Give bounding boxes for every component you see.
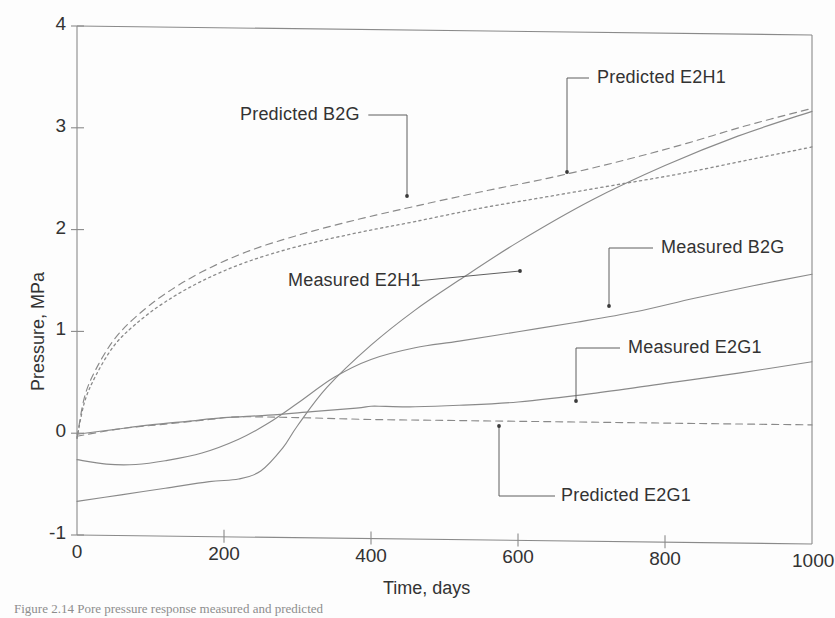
series-annotation-label: Predicted E2H1: [597, 67, 726, 88]
annotation-endpoint: [574, 399, 578, 403]
x-tick-label: 1000: [792, 550, 832, 572]
series-line: [77, 108, 812, 438]
chart-canvas: [0, 0, 835, 618]
series-annotation-label: Measured E2G1: [628, 337, 762, 358]
figure-caption: Figure 2.14 Pore pressure response measu…: [14, 601, 323, 618]
y-tick-label: -1: [34, 522, 66, 544]
x-tick-label: 800: [645, 548, 685, 570]
series-annotation-label: Measured E2H1: [288, 270, 421, 291]
annotation-leader: [567, 78, 589, 172]
x-tick-label: 400: [351, 545, 391, 567]
series-line: [77, 147, 812, 438]
x-tick-label: 600: [498, 546, 538, 568]
figure-container: Pressure, MPa Time, days 020040060080010…: [0, 0, 835, 618]
annotation-leader: [609, 248, 653, 306]
y-tick-label: 3: [34, 115, 66, 137]
annotation-endpoint: [565, 170, 569, 174]
annotation-leader: [416, 271, 520, 281]
series-line: [77, 274, 812, 465]
x-tick-label: 200: [204, 543, 244, 565]
axes: [71, 26, 812, 548]
y-tick-label: 0: [34, 420, 66, 442]
annotation-endpoint: [497, 424, 501, 428]
y-tick-label: 1: [34, 318, 66, 340]
x-tick-label: 0: [57, 541, 97, 563]
annotation-endpoint: [607, 304, 611, 308]
annotation-endpoint: [405, 194, 409, 198]
data-series: [77, 108, 812, 501]
series-annotation-label: Predicted B2G: [240, 104, 360, 125]
series-annotation-label: Measured B2G: [661, 237, 784, 258]
y-tick-label: 2: [34, 217, 66, 239]
annotation-leader: [368, 115, 407, 196]
series-line: [77, 417, 812, 436]
annotation-endpoint: [518, 269, 522, 273]
x-axis-title: Time, days: [383, 578, 470, 599]
annotation-leader: [499, 426, 555, 496]
series-annotation-label: Predicted E2G1: [561, 485, 691, 506]
y-tick-label: 4: [34, 13, 66, 35]
